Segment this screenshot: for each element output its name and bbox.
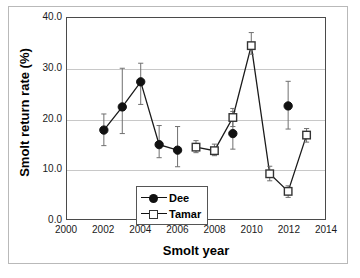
y-tick-label: 20.0 [0,113,62,124]
x-tick-label: 2000 [46,224,86,235]
data-point-dee-2002 [100,126,108,134]
data-point-dee-2003 [118,103,126,111]
y-tick-label: 30.0 [0,62,62,73]
data-point-tamar-2009 [229,114,237,122]
legend-item-dee: Dee [141,190,201,205]
data-point-dee-2012 [284,102,292,110]
data-point-dee-2006 [173,146,181,154]
legend-item-tamar: Tamar [141,206,201,221]
legend-label-dee: Dee [169,192,189,204]
data-point-tamar-2010 [248,42,256,50]
legend-label-tamar: Tamar [169,208,201,220]
data-point-tamar-2013 [303,131,311,139]
data-point-dee-2005 [155,140,163,148]
data-point-dee-2004 [137,78,145,86]
data-point-tamar-2012 [284,188,292,196]
x-tick-label: 2010 [232,224,272,235]
legend-marker-dee [141,192,167,204]
data-point-tamar-2008 [211,147,219,155]
legend-marker-tamar [141,208,167,220]
x-tick-label: 2006 [157,224,197,235]
figure: Smolt return rate (%) 0.010.020.030.040.… [0,0,360,278]
plot-area: Dee Tamar [66,17,326,220]
legend: Dee Tamar [136,186,208,225]
x-tick-label: 2002 [83,224,123,235]
data-point-tamar-2007 [192,143,200,151]
x-tick-label: 2012 [269,224,309,235]
x-tick-label: 2014 [306,224,346,235]
y-tick-label: 10.0 [0,163,62,174]
x-tick-label: 2004 [120,224,160,235]
y-tick-label: 40.0 [0,11,62,22]
data-point-dee-2009 [229,129,237,137]
x-axis-title: Smolt year [66,243,326,258]
error-bar [120,68,125,133]
series-line-tamar [196,46,307,192]
data-point-tamar-2011 [266,170,274,178]
x-tick-label: 2008 [195,224,235,235]
